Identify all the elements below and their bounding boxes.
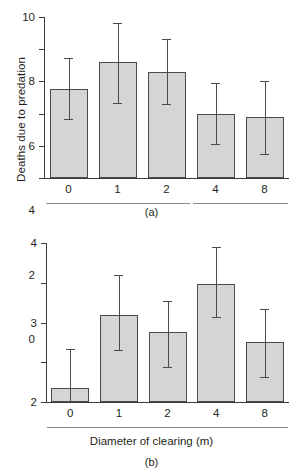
error-bar-cap-lower <box>211 144 220 145</box>
plot-area-a: 0246810 <box>44 17 289 178</box>
y-tick-mark: 2 <box>41 323 46 324</box>
error-bar-cap-upper <box>212 247 221 248</box>
x-axis-a <box>44 178 289 179</box>
error-bar-cap-lower <box>163 367 172 368</box>
y-axis-b <box>46 243 47 402</box>
y-tick-mark: 1 <box>41 362 46 363</box>
error-bar-line <box>216 247 217 317</box>
y-tick-mark: 3 <box>41 283 46 284</box>
y-axis-label-a: Deaths due to predation <box>15 57 27 182</box>
y-tick-label: 10 <box>22 12 35 24</box>
x-tick-label: 1 <box>114 183 120 195</box>
y-tick-label: 3 <box>31 318 37 330</box>
x-axis-b <box>46 402 289 403</box>
plot-area-b: 01234 <box>46 243 289 402</box>
x-tick-label: 1 <box>116 407 122 419</box>
y-tick-mark: 4 <box>41 243 46 244</box>
y-tick-mark: 4 <box>39 114 44 115</box>
error-bar-cap-lower <box>212 317 221 318</box>
x-tick-label: 0 <box>67 407 73 419</box>
y-tick-label: 2 <box>31 397 37 409</box>
error-bar-line <box>118 23 119 103</box>
error-bar-line <box>167 39 168 104</box>
y-tick-mark: 2 <box>39 146 44 147</box>
x-tick-label: 8 <box>261 407 267 419</box>
y-tick-mark: 8 <box>39 49 44 50</box>
group-underline <box>193 203 288 204</box>
panel-caption-a: (a) <box>0 206 303 218</box>
error-bar-line <box>69 58 70 119</box>
error-bar-cap-lower <box>113 103 122 104</box>
error-bar-cap-lower <box>64 119 73 120</box>
error-bar-cap-lower <box>260 377 269 378</box>
panel-caption-b: (b) <box>0 456 303 468</box>
error-bar-cap-upper <box>260 81 269 82</box>
error-bar-cap-upper <box>114 275 123 276</box>
error-bar-line <box>168 301 169 368</box>
x-tick-label: 2 <box>163 183 169 195</box>
x-tick-label: 8 <box>261 183 267 195</box>
y-tick-label: 4 <box>31 238 37 250</box>
y-tick-mark: 0 <box>39 178 44 179</box>
error-bar-line <box>265 309 266 377</box>
error-bar-cap-upper <box>163 301 172 302</box>
x-tick-label: 0 <box>65 183 71 195</box>
x-tick-label: 2 <box>164 407 170 419</box>
figure-container: Deaths due to predation 0246810 01248 (a… <box>0 0 303 473</box>
y-tick-label: 8 <box>29 77 35 89</box>
error-bar-cap-upper <box>211 83 220 84</box>
error-bar-line <box>70 349 71 402</box>
error-bar-cap-upper <box>64 58 73 59</box>
error-bar-cap-upper <box>162 39 171 40</box>
x-tick-label: 4 <box>213 407 219 419</box>
error-bar-cap-upper <box>113 23 122 24</box>
error-bar-cap-upper <box>66 349 75 350</box>
y-tick-label: 6 <box>29 141 35 153</box>
y-tick-mark: 0 <box>41 402 46 403</box>
error-bar-cap-lower <box>114 350 123 351</box>
chart-panel-b: Deaths due to heat stress 01234 01248 Di… <box>0 232 303 473</box>
error-bar-line <box>119 275 120 351</box>
y-tick-mark: 6 <box>39 81 44 82</box>
error-bar-line <box>265 81 266 154</box>
group-underline <box>46 203 190 204</box>
x-axis-label-b: Diameter of clearing (m) <box>0 435 303 447</box>
error-bar-line <box>216 83 217 144</box>
x-tick-label: 4 <box>212 183 218 195</box>
y-tick-mark: 10 <box>39 17 44 18</box>
error-bar-cap-upper <box>260 309 269 310</box>
group-underline <box>47 427 287 428</box>
y-axis-a <box>44 17 45 178</box>
chart-panel-a: Deaths due to predation 0246810 01248 (a… <box>0 0 303 232</box>
error-bar-cap-lower <box>260 154 269 155</box>
error-bar-cap-lower <box>162 104 171 105</box>
